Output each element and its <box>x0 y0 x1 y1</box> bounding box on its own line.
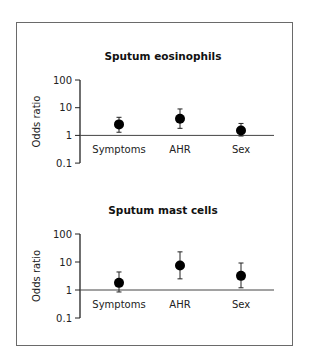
category-label: AHR <box>169 299 190 310</box>
y-tick-label: 10 <box>59 257 72 268</box>
category-label: Symptoms <box>92 299 145 310</box>
chart-title: Sputum eosinophils <box>105 50 222 62</box>
data-point <box>114 278 124 288</box>
data-point <box>236 271 246 281</box>
data-point <box>236 126 246 136</box>
data-point <box>175 260 185 270</box>
y-tick-label: 10 <box>59 102 72 113</box>
y-tick-label: 1 <box>66 285 72 296</box>
y-tick-label: 0.1 <box>56 313 72 324</box>
y-tick-label: 1 <box>66 130 72 141</box>
category-label: Sex <box>232 144 250 155</box>
chart-title: Sputum mast cells <box>108 204 217 216</box>
data-point <box>175 114 185 124</box>
y-tick-label: 100 <box>53 75 72 86</box>
category-label: AHR <box>169 144 190 155</box>
category-label: Sex <box>232 299 250 310</box>
data-point <box>114 119 124 129</box>
y-tick-label: 100 <box>53 229 72 240</box>
y-tick-label: 0.1 <box>56 158 72 169</box>
y-axis-label: Odds ratio <box>31 250 42 302</box>
category-label: Symptoms <box>92 144 145 155</box>
chart-canvas: Sputum eosinophils1001010.1Odds ratioSym… <box>0 0 309 364</box>
y-axis-label: Odds ratio <box>31 96 42 148</box>
